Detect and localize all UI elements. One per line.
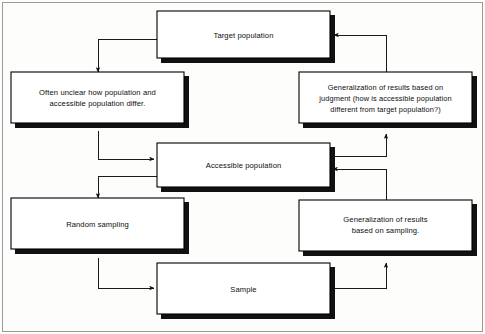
node-sample[interactable]: Sample [157, 263, 335, 319]
edge-accessible-to-generalization-judgment [330, 134, 386, 156]
node-generalization-sampling[interactable]: Generalization of results based on sampl… [299, 200, 477, 256]
node-sample-label-1: Sample [230, 285, 256, 294]
node-often-unclear-label-1: Often unclear how population and [39, 88, 156, 97]
node-target-population[interactable]: Target population [157, 11, 335, 63]
edge-generalization-judgment-to-target [334, 35, 386, 72]
node-generalization-judgment-label-2: judgment (how is accessible population [318, 94, 451, 103]
node-often-unclear-box [11, 72, 184, 123]
node-generalization-sampling-label-1: Generalization of results [343, 215, 427, 224]
node-target-population-label-1: Target population [214, 31, 274, 40]
node-random-sampling[interactable]: Random sampling [11, 198, 189, 254]
edge-random-sampling-to-sample [98, 258, 154, 288]
edge-accessible-to-random-sampling [98, 176, 157, 198]
node-generalization-judgment-label-1: Generalization of results based on [328, 83, 444, 92]
node-often-unclear-label-2: accessible population differ. [49, 99, 145, 108]
node-accessible-population[interactable]: Accessible population [157, 143, 335, 192]
flowchart-diagram: Target population Often unclear how popu… [0, 0, 485, 334]
flowchart-canvas: Target population Often unclear how popu… [0, 0, 485, 334]
edge-sample-to-generalization-sampling [330, 263, 386, 288]
node-generalization-sampling-label-2: based on sampling. [352, 226, 420, 235]
node-generalization-judgment-label-3: different from target population?) [330, 105, 441, 114]
node-generalization-judgment[interactable]: Generalization of results based on judgm… [299, 72, 477, 128]
edge-often-unclear-to-accessible [98, 131, 154, 159]
edge-target-to-often-unclear [98, 39, 157, 72]
node-accessible-population-label-1: Accessible population [206, 161, 282, 170]
node-random-sampling-label-1: Random sampling [66, 220, 129, 229]
node-often-unclear[interactable]: Often unclear how population and accessi… [11, 72, 189, 128]
edge-generalization-sampling-to-accessible [333, 169, 386, 200]
